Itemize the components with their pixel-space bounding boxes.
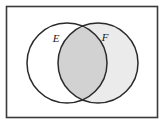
venn-diagram-canvas: E F	[0, 0, 165, 124]
set-label-F: F	[101, 31, 109, 43]
set-label-E: E	[52, 32, 60, 44]
venn-diagram-figure: E F	[0, 0, 165, 124]
